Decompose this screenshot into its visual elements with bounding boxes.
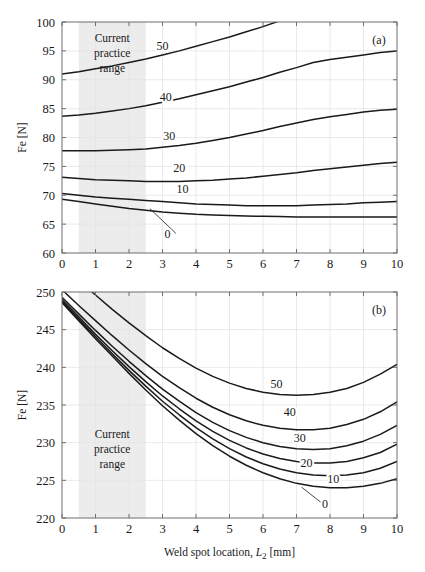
curve-label-20: 20 bbox=[301, 456, 313, 470]
xtick-label: 9 bbox=[360, 257, 366, 271]
chart-panel-b: 5050404030302020101000012345678910220225… bbox=[0, 286, 425, 572]
xtick-label: 3 bbox=[159, 257, 165, 271]
ytick-label: 230 bbox=[36, 436, 55, 450]
curve-label-30: 30 bbox=[163, 129, 175, 143]
xtick-label: 2 bbox=[126, 257, 132, 271]
ytick-label: 85 bbox=[43, 102, 56, 116]
xtick-label: 1 bbox=[92, 257, 98, 271]
ytick-label: 65 bbox=[43, 218, 56, 232]
curve-label-40: 40 bbox=[160, 90, 172, 104]
y-axis-title: Fe [N] bbox=[16, 390, 28, 420]
ytick-label: 80 bbox=[43, 131, 56, 145]
curve-label-20: 20 bbox=[173, 161, 185, 175]
x-axis-title-symbol: L bbox=[255, 546, 262, 558]
current-practice-range-label: range bbox=[99, 458, 125, 471]
ytick-label: 100 bbox=[36, 16, 55, 30]
xtick-label: 6 bbox=[260, 257, 266, 271]
current-practice-range-label: Current bbox=[95, 32, 131, 44]
ytick-label: 90 bbox=[43, 73, 56, 87]
figure-container: 5050404030302020101000012345678910606570… bbox=[0, 0, 425, 572]
curve-label-0: 0 bbox=[322, 497, 328, 511]
current-practice-range-label: Current bbox=[95, 428, 131, 440]
xtick-label: 6 bbox=[260, 522, 266, 536]
curve-label-40: 40 bbox=[284, 405, 296, 419]
ytick-label: 245 bbox=[36, 323, 55, 337]
ytick-label: 225 bbox=[36, 474, 55, 488]
ytick-label: 60 bbox=[43, 247, 56, 261]
curve-label-10: 10 bbox=[177, 182, 189, 196]
xtick-label: 0 bbox=[59, 257, 65, 271]
xtick-label: 1 bbox=[92, 522, 98, 536]
current-practice-range-label: practice bbox=[94, 443, 130, 456]
y-axis-title: Fe [N] bbox=[16, 122, 28, 152]
xtick-label: 8 bbox=[327, 257, 333, 271]
xtick-label: 9 bbox=[360, 522, 366, 536]
curve-label-10: 10 bbox=[327, 472, 339, 486]
panel-label-a: (a) bbox=[372, 33, 385, 47]
xtick-label: 10 bbox=[391, 257, 404, 271]
current-practice-range-label: practice bbox=[94, 47, 130, 60]
ytick-label: 240 bbox=[36, 361, 55, 375]
xtick-label: 10 bbox=[391, 522, 404, 536]
xtick-label: 3 bbox=[159, 522, 165, 536]
x-axis-title: Weld spot location, L2 [mm] bbox=[164, 546, 295, 561]
curve-label-50: 50 bbox=[270, 377, 282, 391]
ytick-label: 95 bbox=[43, 44, 56, 58]
x-axis-title-main: Weld spot location, bbox=[164, 546, 256, 559]
ytick-label: 70 bbox=[43, 189, 56, 203]
xtick-label: 8 bbox=[327, 522, 333, 536]
ytick-label: 220 bbox=[36, 512, 55, 526]
ytick-label: 75 bbox=[43, 160, 56, 174]
panel-label-b: (b) bbox=[372, 303, 386, 317]
xtick-label: 5 bbox=[226, 522, 232, 536]
xtick-label: 7 bbox=[293, 257, 299, 271]
xtick-label: 4 bbox=[193, 257, 200, 271]
chart-svg-b: 5050404030302020101000012345678910220225… bbox=[0, 286, 425, 572]
curve-label-0: 0 bbox=[165, 227, 171, 241]
xtick-label: 2 bbox=[126, 522, 132, 536]
chart-panel-a: 5050404030302020101000012345678910606570… bbox=[0, 0, 425, 286]
xtick-label: 7 bbox=[293, 522, 299, 536]
curve-label-30: 30 bbox=[294, 431, 306, 445]
ytick-label: 235 bbox=[36, 399, 55, 413]
xtick-label: 5 bbox=[226, 257, 232, 271]
xtick-label: 0 bbox=[59, 522, 65, 536]
ytick-label: 250 bbox=[36, 286, 55, 300]
x-axis-title-unit: [mm] bbox=[267, 546, 295, 558]
xtick-label: 4 bbox=[193, 522, 200, 536]
current-practice-range-label: range bbox=[99, 62, 125, 75]
curve-label-50: 50 bbox=[157, 39, 169, 53]
chart-svg-a: 5050404030302020101000012345678910606570… bbox=[0, 0, 425, 286]
